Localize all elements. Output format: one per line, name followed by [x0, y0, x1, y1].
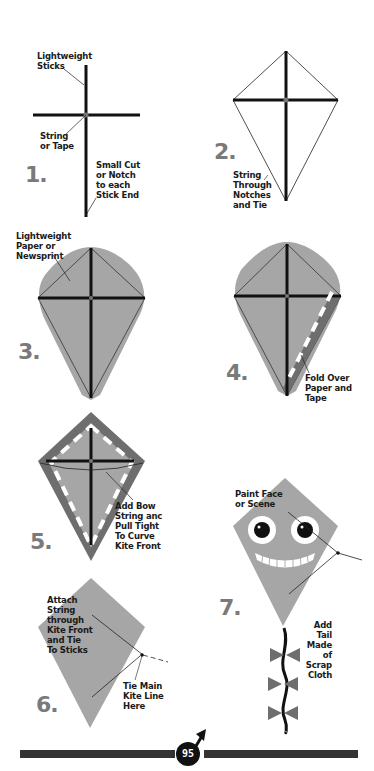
- label-attach-string: Attach String through Kite Front and Tie…: [47, 595, 93, 655]
- label-add-bow-string: Add Bow String anc Pull Tight To Curve K…: [115, 501, 162, 551]
- step-6-number: 6.: [36, 694, 58, 716]
- label-paint-face: Paint Face or Scene: [235, 489, 283, 509]
- step-7-number: 7.: [219, 597, 241, 619]
- kite-instructions-page: 1. 2. 3. 4. 5. 6. 7. Lightweight Sticks …: [0, 0, 374, 771]
- step-4-number: 4.: [226, 362, 248, 384]
- label-tie-main-kite-line: Tie Main Kite Line Here: [123, 681, 164, 711]
- label-small-cut-notch: Small Cut or Notch to each Stick End: [96, 160, 140, 200]
- step-3-number: 3.: [18, 341, 40, 363]
- step-3-diagram: [38, 247, 145, 400]
- step-7-diagram: [233, 478, 362, 733]
- label-string-through-notches: String Through Notches and Tie: [233, 170, 272, 210]
- step-1-number: 1.: [25, 164, 47, 186]
- label-lightweight-sticks: Lightweight Sticks: [37, 51, 92, 71]
- step-5-number: 5.: [30, 531, 52, 553]
- page-number: 95: [176, 748, 200, 760]
- label-lightweight-paper: Lightweight Paper or Newsprint: [16, 231, 71, 261]
- label-add-tail: Add Tail Made of Scrap Cloth: [302, 620, 332, 680]
- step-2-number: 2.: [214, 141, 236, 163]
- label-string-or-tape: String or Tape: [40, 131, 74, 151]
- label-fold-over-paper: Fold Over Paper and Tape: [305, 373, 352, 403]
